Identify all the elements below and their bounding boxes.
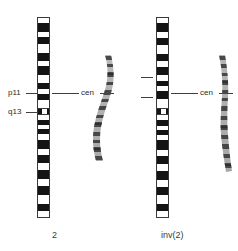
caption-normal: 2 — [52, 230, 57, 240]
panel-normal-chromosome: p11 q13 cen — [0, 0, 119, 251]
ideogram-band — [38, 23, 49, 32]
leader-line-q13 — [26, 112, 37, 113]
ideogram-band — [157, 195, 168, 204]
leader-line-p11 — [26, 93, 37, 94]
ideogram-band — [157, 91, 168, 99]
ideogram-band — [38, 155, 49, 163]
ideogram-band — [38, 195, 49, 204]
chromosome-comparison-figure: p11 q13 cen — [0, 0, 238, 251]
tick-breakpoint-upper — [141, 77, 153, 78]
label-p11: p11 — [8, 88, 21, 97]
label-q13: q13 — [8, 107, 21, 116]
ideogram-band — [157, 156, 168, 164]
ideogram-band — [38, 75, 49, 83]
ideogram-band — [157, 180, 168, 187]
ideogram-band — [38, 204, 49, 211]
ideogram-band — [157, 187, 168, 195]
ideogram-band — [157, 204, 168, 211]
ideogram-band — [157, 99, 168, 108]
ideogram-band — [157, 45, 168, 54]
ideogram-band — [38, 170, 49, 179]
chromosome-inv2-ideogram[interactable] — [156, 17, 169, 218]
tick-breakpoint-lower — [141, 97, 153, 98]
ideogram-band — [157, 164, 168, 171]
ideogram-band — [38, 44, 49, 53]
chromosome-2-ideogram[interactable] — [37, 17, 50, 218]
ideogram-band — [157, 211, 168, 218]
leader-line-cen-left — [171, 93, 198, 94]
ideogram-band — [38, 140, 49, 149]
panel-inverted-chromosome: cen — [119, 0, 238, 251]
ideogram-band — [157, 67, 168, 75]
caption-inverted: inv(2) — [161, 230, 184, 240]
ideogram-band — [157, 23, 168, 32]
ideogram-band — [157, 171, 168, 180]
ideogram-band — [38, 211, 49, 218]
banded-chromosome-photo-normal[interactable] — [88, 53, 118, 165]
ideogram-band — [157, 140, 168, 150]
ideogram-band — [38, 100, 49, 108]
ideogram-band — [38, 53, 49, 61]
ideogram-band — [157, 54, 168, 61]
banded-chromosome-photo-inverted[interactable] — [207, 53, 235, 175]
ideogram-band — [157, 38, 168, 45]
ideogram-band — [38, 37, 49, 44]
ideogram-band — [38, 179, 49, 186]
ideogram-band — [38, 163, 49, 170]
centromere-band[interactable] — [156, 108, 169, 115]
ideogram-band — [38, 66, 49, 75]
centromere-band[interactable] — [37, 108, 50, 115]
leader-line-cen-left — [52, 93, 79, 94]
ideogram-band — [38, 186, 49, 195]
